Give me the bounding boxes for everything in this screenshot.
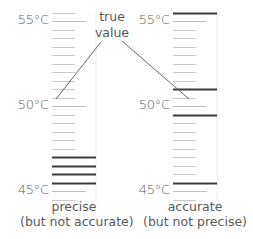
true-value-connector-left [56, 42, 101, 99]
precise-caption-title: precise [20, 199, 128, 214]
precision-accuracy-diagram: 55°C 50°C 45°C 55°C 50°C 45°C true value… [0, 0, 253, 239]
right-label-50: 50°C [122, 97, 170, 112]
true-value-connector-right [122, 41, 189, 99]
true-value-line1: true [88, 9, 136, 25]
precise-caption: precise (but not accurate) [20, 199, 128, 229]
precise-caption-note: (but not accurate) [20, 214, 128, 229]
accurate-caption: accurate (but not precise) [141, 199, 249, 229]
accurate-caption-note: (but not precise) [141, 214, 249, 229]
left-label-45: 45°C [1, 182, 49, 197]
right-label-45: 45°C [122, 182, 170, 197]
left-label-55: 55°C [1, 12, 49, 27]
left-label-50: 50°C [1, 97, 49, 112]
accurate-caption-title: accurate [141, 199, 249, 214]
true-value-line2: value [88, 25, 136, 41]
true-value-label: true value [88, 9, 136, 41]
